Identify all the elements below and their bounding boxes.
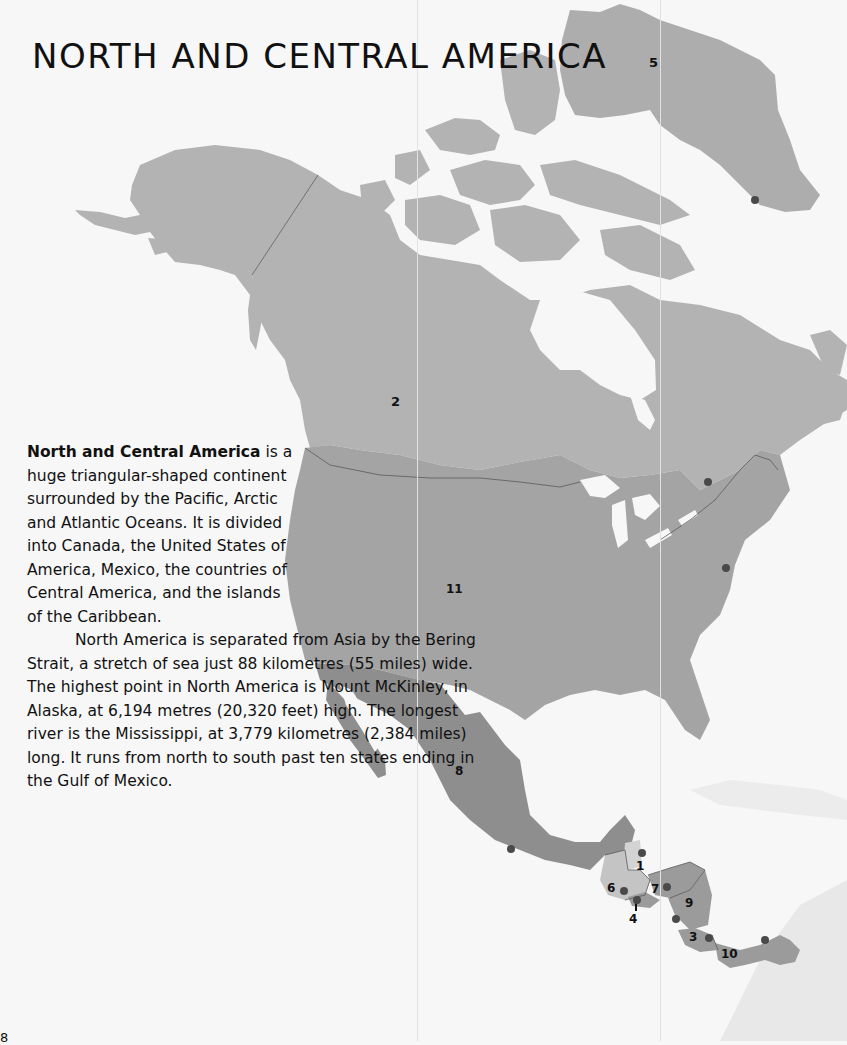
label-guatemala: 6	[607, 882, 615, 894]
caribbean-islands-shape	[690, 780, 847, 820]
label-costa-rica: 3	[689, 931, 697, 943]
label-el-salvador: 4	[629, 913, 637, 925]
page-number: 8	[0, 1030, 8, 1045]
capital-marker-ottawa	[704, 478, 712, 486]
intro-text: North and Central America is a huge tria…	[27, 441, 497, 794]
page-fold-line	[660, 0, 661, 1041]
label-usa: 11	[446, 583, 463, 595]
label-honduras: 7	[651, 883, 659, 895]
label-greenland: 5	[649, 57, 658, 69]
intro-paragraph-1-body: is a huge triangular-shaped continent su…	[27, 443, 292, 626]
capital-marker-san-salvador	[633, 896, 641, 904]
capital-marker-washington	[722, 564, 730, 572]
capital-marker-mexico-city	[507, 845, 515, 853]
page-title: NORTH AND CENTRAL AMERICA	[32, 36, 607, 76]
capital-marker-belmopan	[638, 849, 646, 857]
label-panama: 10	[721, 948, 738, 960]
intro-lead: North and Central America	[27, 443, 261, 461]
label-mexico: 8	[455, 765, 463, 777]
intro-paragraph-2: North America is separated from Asia by …	[27, 629, 489, 794]
capital-marker-panama-city	[761, 936, 769, 944]
label-belize: 1	[636, 860, 644, 872]
label-nicaragua: 9	[685, 897, 693, 909]
capital-marker-nuuk	[751, 196, 759, 204]
capital-marker-tegucigalpa	[663, 883, 671, 891]
capital-marker-san-jose	[705, 934, 713, 942]
capital-marker-managua	[672, 915, 680, 923]
intro-paragraph-2-body: North America is separated from Asia by …	[27, 631, 476, 790]
capital-marker-guatemala-city	[620, 887, 628, 895]
intro-paragraph-1: North and Central America is a huge tria…	[27, 441, 297, 629]
label-canada: 2	[391, 396, 400, 408]
